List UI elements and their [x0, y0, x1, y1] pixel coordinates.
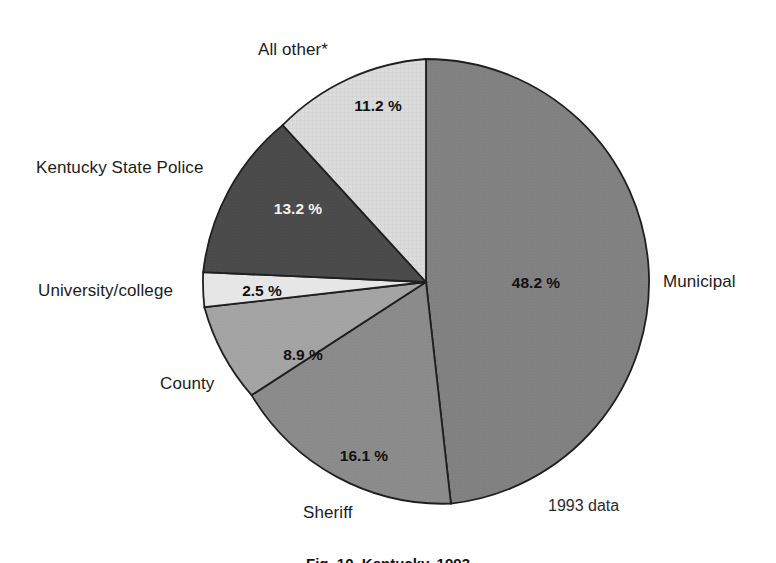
- chart-note-year: 1993 data: [548, 497, 619, 515]
- slice-value-sheriff: 16.1 %: [340, 447, 388, 464]
- pie-label-sheriff: Sheriff: [303, 503, 353, 523]
- pie-chart-figure: 48.2 % 16.1 % 8.9 % 2.5 % 13.2 % 11.2 % …: [0, 0, 776, 563]
- pie-label-county: County: [160, 374, 214, 394]
- slice-value-kentucky-state-police: 13.2 %: [274, 200, 322, 217]
- pie-chart-page: 48.2 % 16.1 % 8.9 % 2.5 % 13.2 % 11.2 % …: [0, 0, 776, 563]
- slice-value-all-other: 11.2 %: [354, 97, 402, 114]
- slice-value-municipal: 48.2 %: [512, 274, 560, 291]
- slice-value-county: 8.9 %: [283, 346, 323, 363]
- pie-label-municipal: Municipal: [663, 272, 736, 292]
- figure-caption: Fig. 10. Kentucky, 1993: [0, 554, 776, 563]
- pie-label-university-college: University/college: [38, 281, 173, 301]
- pie-label-kentucky-state-police: Kentucky State Police: [36, 158, 203, 178]
- pie-label-all-other: All other*: [258, 40, 328, 60]
- slice-value-university-college: 2.5 %: [242, 282, 282, 299]
